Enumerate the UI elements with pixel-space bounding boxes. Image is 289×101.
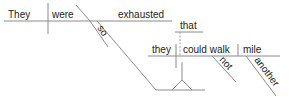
predicate-slant bbox=[76, 5, 90, 21]
word-sub-verb: could walk bbox=[183, 44, 231, 55]
word-sub-object: mile bbox=[243, 44, 262, 55]
word-verb: were bbox=[51, 9, 74, 20]
word-not: not bbox=[218, 54, 236, 72]
fork-left bbox=[172, 80, 182, 90]
word-subject: They bbox=[8, 9, 30, 20]
sentence-diagram: They were exhausted so that they could w… bbox=[0, 0, 289, 101]
fork-right bbox=[182, 80, 192, 90]
word-that: that bbox=[180, 20, 197, 31]
word-sub-subject: they bbox=[152, 44, 171, 55]
word-predicate-adjective: exhausted bbox=[118, 9, 164, 20]
word-so: so bbox=[95, 23, 110, 38]
